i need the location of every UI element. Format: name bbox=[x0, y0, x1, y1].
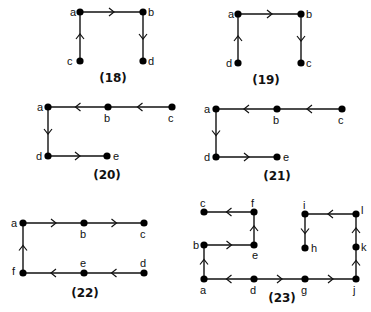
node-b bbox=[104, 103, 111, 110]
node-b bbox=[139, 8, 146, 15]
node-k bbox=[352, 243, 359, 250]
figure-18: abcd(18) bbox=[67, 6, 154, 85]
figure-caption: (21) bbox=[263, 169, 291, 183]
node-label: c bbox=[140, 228, 146, 240]
node-label: d bbox=[250, 284, 256, 296]
figure-caption: (19) bbox=[252, 73, 280, 87]
node-e bbox=[103, 152, 110, 159]
node-label: b bbox=[306, 8, 312, 20]
node-c bbox=[168, 103, 175, 110]
node-c bbox=[297, 59, 304, 66]
node-label: d bbox=[226, 57, 232, 69]
node-label: b bbox=[80, 228, 86, 240]
node-f bbox=[19, 269, 26, 276]
node-i bbox=[301, 210, 308, 217]
figure-20: abcde(20) bbox=[36, 101, 176, 182]
node-label: b bbox=[104, 112, 110, 124]
node-label: c bbox=[200, 197, 206, 209]
figure-caption: (23) bbox=[268, 291, 296, 305]
node-l bbox=[352, 210, 359, 217]
figure-21: abcde(21) bbox=[204, 103, 346, 183]
node-c bbox=[76, 57, 83, 64]
node-label: j bbox=[352, 284, 355, 296]
node-label: d bbox=[140, 257, 146, 269]
node-d bbox=[234, 59, 241, 66]
node-a bbox=[234, 10, 241, 17]
node-label: a bbox=[70, 6, 77, 18]
node-label: b bbox=[193, 239, 199, 251]
node-label: c bbox=[306, 57, 312, 69]
node-d bbox=[140, 269, 147, 276]
node-label: l bbox=[361, 204, 363, 216]
node-label: a bbox=[204, 103, 211, 115]
node-e bbox=[250, 241, 257, 248]
node-h bbox=[301, 244, 308, 251]
node-label: c bbox=[168, 112, 174, 124]
node-e bbox=[80, 269, 87, 276]
node-label: h bbox=[311, 242, 317, 254]
node-label: g bbox=[301, 284, 307, 296]
node-c bbox=[200, 208, 207, 215]
node-g bbox=[301, 275, 308, 282]
node-a bbox=[44, 103, 51, 110]
node-c bbox=[338, 105, 345, 112]
node-label: f bbox=[12, 265, 16, 277]
node-label: b bbox=[148, 6, 154, 18]
node-j bbox=[352, 275, 359, 282]
node-d bbox=[250, 275, 257, 282]
node-label: a bbox=[11, 217, 18, 229]
node-label: e bbox=[80, 257, 86, 269]
figure-caption: (18) bbox=[99, 71, 127, 85]
node-a bbox=[19, 219, 26, 226]
node-e bbox=[273, 153, 280, 160]
node-label: c bbox=[338, 114, 344, 126]
node-a bbox=[76, 8, 83, 15]
node-label: d bbox=[36, 150, 42, 162]
node-label: f bbox=[251, 197, 255, 209]
node-d bbox=[44, 152, 51, 159]
node-label: k bbox=[361, 241, 367, 253]
figure-19: abcd(19) bbox=[226, 8, 312, 87]
node-label: e bbox=[252, 249, 258, 261]
node-label: a bbox=[200, 284, 207, 296]
node-label: d bbox=[148, 55, 154, 67]
node-b bbox=[297, 10, 304, 17]
node-label: i bbox=[303, 199, 305, 211]
node-d bbox=[139, 57, 146, 64]
node-label: a bbox=[37, 101, 44, 113]
node-b bbox=[200, 241, 207, 248]
node-d bbox=[212, 153, 219, 160]
figure-23: abcdefghijkl(23) bbox=[193, 197, 367, 305]
node-label: c bbox=[67, 55, 73, 67]
directed-graph-diagrams: abcd(18)abcd(19)abcde(20)abcde(21)abcdef… bbox=[0, 0, 371, 312]
node-a bbox=[212, 105, 219, 112]
node-b bbox=[273, 105, 280, 112]
node-label: b bbox=[273, 114, 279, 126]
node-label: e bbox=[113, 150, 119, 162]
node-label: e bbox=[283, 151, 289, 163]
node-b bbox=[80, 219, 87, 226]
figure-caption: (20) bbox=[93, 168, 121, 182]
node-label: d bbox=[204, 151, 210, 163]
figure-caption: (22) bbox=[71, 286, 99, 300]
node-c bbox=[140, 219, 147, 226]
node-a bbox=[200, 275, 207, 282]
figure-22: abcdef(22) bbox=[11, 217, 148, 300]
node-label: a bbox=[228, 8, 235, 20]
node-f bbox=[250, 208, 257, 215]
